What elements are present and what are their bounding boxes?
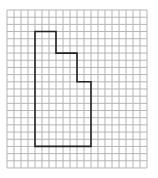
grid-diagram [0, 0, 158, 178]
grid-lines [7, 10, 147, 168]
